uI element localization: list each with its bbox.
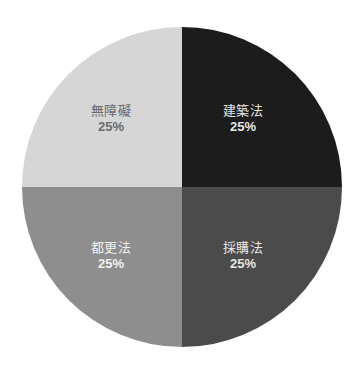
slice-percent: 25% [203,256,283,272]
pie-chart-svg [0,0,361,369]
slice-percent: 25% [203,119,283,135]
slice-label-accessibility: 無障礙 25% [71,103,151,135]
slice-label-procurement-act: 採購法 25% [203,240,283,272]
slice-name: 都更法 [71,240,151,256]
slice-name: 採購法 [203,240,283,256]
slice-label-building-act: 建築法 25% [203,103,283,135]
slice-percent: 25% [71,256,151,272]
pie-chart: 建築法 25% 採購法 25% 都更法 25% 無障礙 25% [0,0,361,369]
slice-percent: 25% [71,119,151,135]
slice-label-urban-renewal-act: 都更法 25% [71,240,151,272]
slice-name: 建築法 [203,103,283,119]
slice-name: 無障礙 [71,103,151,119]
